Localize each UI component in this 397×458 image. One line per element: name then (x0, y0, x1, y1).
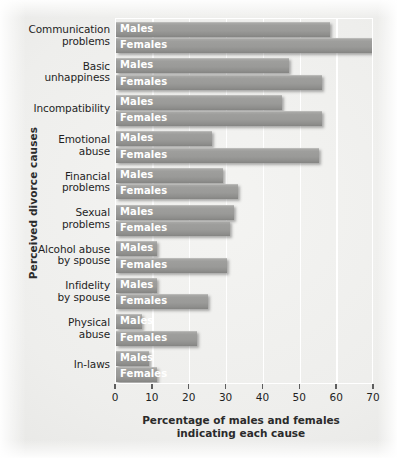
bar-series-label: Females (120, 112, 167, 123)
bar-row: Females (116, 294, 373, 309)
x-tick-mark-40 (262, 384, 263, 389)
bar-series-label: Females (120, 76, 167, 87)
divorce-causes-bar-chart: Perceived divorce causes Communicationpr… (0, 0, 397, 458)
category-label-line: Emotional (6, 134, 110, 146)
bar-row: Males (116, 351, 373, 366)
category-label-9: In-laws (6, 359, 110, 371)
category-label-1: Basicunhappiness (6, 61, 110, 84)
bar-series-label: Males (120, 132, 153, 143)
bar-row: Females (116, 75, 373, 90)
bar-series-label: Males (120, 23, 153, 34)
x-tick-label-60: 60 (323, 391, 349, 403)
bar-series-label: Males (120, 315, 153, 326)
category-label-3: Emotionalabuse (6, 134, 110, 157)
x-axis-title: Percentage of males and females indicati… (96, 414, 386, 440)
x-tick-mark-30 (225, 384, 226, 389)
bar-row: Males (116, 58, 373, 73)
bar-row: Females (116, 184, 373, 199)
bar-series-label: Females (120, 39, 167, 50)
category-label-line: by spouse (6, 255, 110, 267)
bar-row: Females (116, 258, 373, 273)
x-tick-label-10: 10 (139, 391, 165, 403)
category-label-5: Sexualproblems (6, 207, 110, 230)
bar-row: Males (116, 278, 373, 293)
bar-row: Females (116, 221, 373, 236)
category-label-line: problems (6, 219, 110, 231)
bar-row: Males (116, 131, 373, 146)
category-label-line: Incompatibility (6, 103, 110, 115)
bar-series-label: Males (120, 352, 153, 363)
x-axis-title-line2: indicating each cause (96, 427, 386, 440)
x-tick-label-40: 40 (249, 391, 275, 403)
category-label-line: by spouse (6, 292, 110, 304)
bar-row: Females (116, 148, 373, 163)
bar-series-label: Males (120, 206, 153, 217)
category-label-line: In-laws (6, 359, 110, 371)
x-tick-label-70: 70 (360, 391, 386, 403)
category-label-line: problems (6, 36, 110, 48)
bar-row: Males (116, 205, 373, 220)
bar-row: Males (116, 22, 373, 37)
category-label-line: abuse (6, 146, 110, 158)
bar-row: Males (116, 241, 373, 256)
x-tick-mark-60 (335, 384, 336, 389)
category-label-line: Physical (6, 317, 110, 329)
x-tick-mark-50 (299, 384, 300, 389)
x-tick-mark-20 (188, 384, 189, 389)
category-label-6: Alcohol abuseby spouse (6, 244, 110, 267)
x-tick-mark-0 (114, 384, 115, 389)
x-tick-label-20: 20 (176, 391, 202, 403)
x-tick-mark-70 (372, 384, 373, 389)
bar-row: Females (116, 111, 373, 126)
bar-row: Males (116, 314, 373, 329)
bar-row: Females (116, 38, 373, 53)
category-label-column: CommunicationproblemsBasicunhappinessInc… (6, 18, 110, 384)
category-label-line: abuse (6, 329, 110, 341)
plot-area: MalesFemalesMalesFemalesMalesFemalesMale… (115, 18, 373, 384)
bar-series-label: Females (120, 368, 167, 379)
category-label-0: Communicationproblems (6, 24, 110, 47)
bar-series-label: Females (120, 222, 167, 233)
bar-series-label: Males (120, 279, 153, 290)
x-tick-mark-10 (151, 384, 152, 389)
category-label-line: unhappiness (6, 72, 110, 84)
bar-row: Females (116, 367, 373, 382)
bar-row: Females (116, 331, 373, 346)
category-label-8: Physicalabuse (6, 317, 110, 340)
x-tick-label-50: 50 (286, 391, 312, 403)
bar-series-label: Females (120, 332, 167, 343)
bar-series-label: Females (120, 259, 167, 270)
category-label-line: problems (6, 182, 110, 194)
bar-row: Males (116, 95, 373, 110)
bar-series-label: Females (120, 185, 167, 196)
x-axis-title-line1: Percentage of males and females (96, 414, 386, 427)
bar-series-label: Females (120, 295, 167, 306)
bar-row: Males (116, 168, 373, 183)
bar-series-label: Females (120, 149, 167, 160)
bar-series-label: Males (120, 242, 153, 253)
bar-series-label: Males (120, 59, 153, 70)
x-tick-label-0: 0 (102, 391, 128, 403)
bar-series-label: Males (120, 96, 153, 107)
bar-series-label: Males (120, 169, 153, 180)
category-label-4: Financialproblems (6, 171, 110, 194)
category-label-7: Infidelityby spouse (6, 280, 110, 303)
category-label-2: Incompatibility (6, 103, 110, 115)
x-tick-label-30: 30 (213, 391, 239, 403)
